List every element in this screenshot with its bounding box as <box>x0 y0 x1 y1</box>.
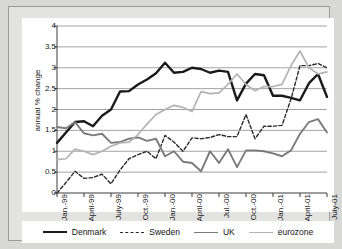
y-tick-label: 1.5 <box>45 126 56 134</box>
y-tick-label: 3.5 <box>45 43 56 51</box>
y-tick-label: 2 <box>52 106 56 114</box>
x-tick-label: April-99 <box>87 194 96 222</box>
legend-line-sweden-icon <box>120 232 144 233</box>
y-tick-label: 2.5 <box>45 85 56 93</box>
y-tick-label: 4 <box>52 22 56 30</box>
legend-item-uk[interactable]: UK <box>194 227 235 237</box>
x-tick-label: Jan.-99 <box>60 194 69 221</box>
y-axis-ticks: 00.511.522.533.54 <box>22 18 56 212</box>
legend-label-uk: UK <box>223 227 235 237</box>
x-tick-label: Jan.-00 <box>168 194 177 221</box>
x-tick-label: July-99 <box>114 194 123 220</box>
x-tick-label: July-01 <box>330 194 339 220</box>
x-tick-label: April-01 <box>303 194 312 222</box>
legend-label-denmark: Denmark <box>72 227 106 237</box>
legend-line-uk-icon <box>194 232 218 233</box>
x-tick-label: April-00 <box>195 194 204 222</box>
legend-item-denmark[interactable]: Denmark <box>43 227 106 237</box>
legend-line-eurozone-icon <box>249 232 273 233</box>
x-tick-label: Oct.-99 <box>141 194 150 220</box>
chart-legend: Denmark Sweden UK eurozone <box>22 221 334 243</box>
legend-label-sweden: Sweden <box>149 227 180 237</box>
legend-item-eurozone[interactable]: eurozone <box>249 227 313 237</box>
series-line-sweden <box>57 64 327 193</box>
legend-item-sweden[interactable]: Sweden <box>120 227 180 237</box>
chart-frame: annual % change 00.511.522.533.54 Jan.-9… <box>8 6 330 241</box>
x-tick-label: Jul.-00 <box>222 194 231 218</box>
plot-card: annual % change 00.511.522.533.54 Jan.-9… <box>22 18 334 212</box>
x-tick-label: Oct.-00 <box>249 194 258 220</box>
plot-area <box>22 18 334 212</box>
figure-background: annual % change 00.511.522.533.54 Jan.-9… <box>0 0 342 249</box>
y-tick-label: 0.5 <box>45 168 56 176</box>
x-tick-label: Jan.-01 <box>276 194 285 221</box>
y-tick-label: 3 <box>52 64 56 72</box>
legend-line-denmark-icon <box>43 231 67 233</box>
legend-label-eurozone: eurozone <box>278 227 313 237</box>
series-line-uk <box>57 119 327 171</box>
y-tick-label: 1 <box>52 147 56 155</box>
